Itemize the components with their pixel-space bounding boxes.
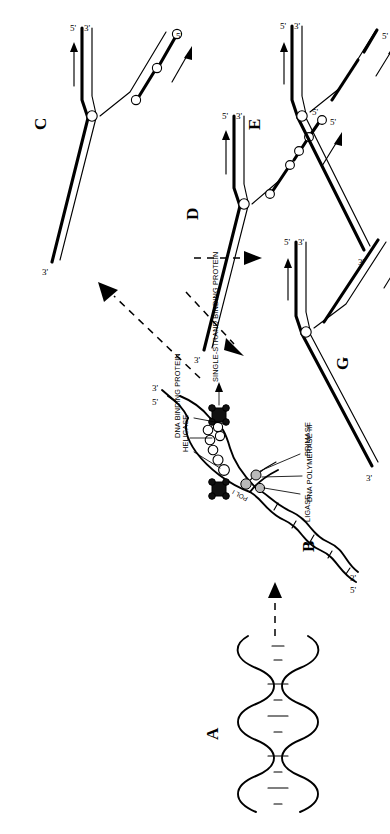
panel-E-fork: [236, 14, 386, 258]
panel-B-tick-5prime-top: 5': [152, 398, 158, 407]
panel-D-tick-5prime-lead: 5': [222, 112, 228, 121]
panel-E-label: E: [246, 119, 263, 130]
polymerase-bead: [241, 479, 251, 489]
panel-G-tick-5prime-lead: 5': [284, 238, 290, 247]
fork-junction-bead: [301, 327, 311, 337]
panel-A: A: [196, 636, 346, 816]
rotated-figure-body: A: [0, 0, 390, 834]
panel-G-fork: [238, 230, 390, 474]
figure-canvas: A: [0, 0, 390, 834]
primer-bead: [208, 445, 218, 455]
panel-G-tick-3prime-lead: 3': [298, 238, 304, 247]
primer-bead: [213, 455, 223, 465]
panel-B-tick-3prime-top: 3': [152, 384, 158, 393]
primer-bead: [219, 465, 230, 476]
panel-C-fork: [26, 18, 194, 268]
panel-C-tick-5prime-lead: 5': [70, 24, 76, 33]
panel-C-tick-5prime-lag: 5': [176, 32, 182, 41]
enzyme-label-helicase: HELICASE: [182, 415, 189, 452]
panel-A-helix: [196, 631, 346, 816]
ssb-cluster-left: [209, 479, 230, 500]
panel-E-tick-5prime-inner: 5': [312, 108, 318, 117]
ssb-cluster-right: [209, 405, 230, 426]
panel-G: G 5' 3' 3' 5': [238, 230, 390, 474]
ligase-bead: [255, 483, 264, 492]
primer-bead: [205, 435, 215, 445]
panel-G-tick-3prime-parent: 3': [366, 474, 372, 483]
panel-B-tick-3prime-bottom: 3': [350, 574, 356, 583]
panel-C-tick-3prime-parent: 3': [42, 268, 48, 277]
panel-D-label: D: [184, 208, 201, 220]
panel-D-tick-3prime-parent: 3': [194, 356, 200, 365]
panel-E-tick-5prime-lead: 5': [280, 22, 286, 31]
panel-B-tick-5prime-bottom: 5': [350, 586, 356, 595]
primer-bead: [131, 95, 140, 104]
panel-C-label: C: [32, 118, 49, 130]
primer-bead: [203, 425, 213, 435]
panel-C: C 5' 3' 3' 5': [26, 18, 194, 268]
primer-bead: [215, 431, 224, 440]
panel-G-label: G: [334, 357, 351, 370]
panel-E: E 5' 3' 3' 5' 5': [236, 14, 386, 258]
panel-C-tick-3prime-lead: 3': [84, 24, 90, 33]
panel-A-label: A: [204, 728, 221, 740]
fork-junction-bead: [87, 111, 97, 121]
primer-bead: [152, 63, 161, 72]
fork-junction-bead: [297, 111, 307, 121]
panel-E-tick-3prime-lead: 3': [294, 22, 300, 31]
panel-B-label: B: [300, 541, 317, 552]
panel-E-tick-5prime-lag: 5': [382, 32, 388, 41]
